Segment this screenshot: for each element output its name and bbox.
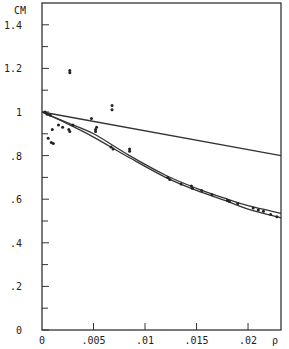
x-axis-title: ρ — [272, 335, 278, 346]
data-point — [49, 114, 52, 117]
data-point — [94, 130, 97, 133]
data-point — [47, 137, 50, 140]
y-tick-label: 1.2 — [4, 63, 22, 74]
chart: 0.2.4.6.811.21.40.005.01.015.02CMρ — [0, 0, 289, 349]
x-tick-label: .01 — [136, 335, 154, 346]
data-point — [111, 104, 114, 107]
data-point — [57, 124, 60, 127]
data-point — [44, 111, 47, 114]
data-point — [269, 213, 272, 216]
data-point — [200, 189, 203, 192]
data-point — [210, 193, 213, 196]
data-point — [90, 117, 93, 120]
data-point — [252, 206, 255, 209]
y-tick-label: 1.4 — [4, 20, 22, 31]
x-tick-label: .015 — [184, 335, 208, 346]
model-curve — [42, 112, 281, 156]
x-tick-label: .005 — [81, 335, 105, 346]
axis-labels: 0.2.4.6.811.21.40.005.01.015.02CMρ — [4, 5, 278, 346]
data-point — [262, 210, 265, 213]
data-point — [275, 215, 278, 218]
data-point — [52, 142, 55, 145]
y-axis-title: CM — [14, 5, 26, 16]
data-point — [128, 150, 131, 153]
y-tick-label: .2 — [10, 281, 22, 292]
data-point — [257, 209, 260, 212]
x-tick-label: .02 — [239, 335, 257, 346]
model-lines — [42, 112, 281, 218]
plot-frame — [42, 3, 281, 330]
y-tick-label: .6 — [10, 194, 22, 205]
y-tick-label: 0 — [16, 325, 22, 336]
data-point — [180, 182, 183, 185]
data-point — [228, 200, 231, 203]
x-tick-label: 0 — [39, 335, 45, 346]
data-point — [110, 145, 113, 148]
axis-ticks — [42, 25, 248, 330]
plot-border — [42, 3, 281, 330]
y-tick-label: 1 — [16, 107, 22, 118]
y-tick-label: .4 — [10, 238, 22, 249]
data-point — [68, 130, 71, 133]
data-point — [111, 108, 114, 111]
data-point — [68, 71, 71, 74]
data-point — [61, 126, 64, 129]
y-tick-label: .8 — [10, 151, 22, 162]
data-point — [95, 126, 98, 129]
data-point — [71, 124, 74, 127]
model-curve — [42, 112, 281, 213]
data-points — [44, 69, 279, 218]
model-curve — [42, 112, 281, 218]
data-point — [166, 176, 169, 179]
data-point — [46, 113, 49, 116]
data-point — [191, 187, 194, 190]
data-point — [236, 202, 239, 205]
data-point — [112, 148, 115, 151]
data-point — [168, 178, 171, 181]
data-point — [51, 128, 54, 131]
